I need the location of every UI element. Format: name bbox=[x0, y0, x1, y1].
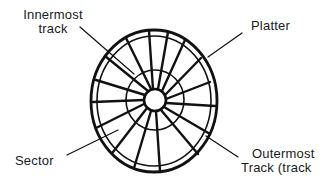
callout-outermost-track bbox=[206, 136, 238, 157]
label-innermost-line1: Innermost bbox=[21, 8, 85, 22]
label-innermost-line2: track bbox=[21, 22, 85, 36]
label-platter-text: Platter bbox=[251, 19, 290, 33]
label-platter: Platter bbox=[251, 19, 290, 33]
label-innermost-track: Innermost track bbox=[21, 8, 85, 36]
label-outermost-track: Outermost Track (track bbox=[241, 147, 314, 175]
label-sector-text: Sector bbox=[15, 154, 54, 168]
label-sector: Sector bbox=[15, 154, 54, 168]
platter bbox=[91, 30, 217, 172]
callout-platter bbox=[208, 33, 242, 57]
label-outermost-line2: Track (track bbox=[241, 161, 314, 175]
callout-innermost-track bbox=[80, 27, 134, 74]
label-outermost-line1: Outermost bbox=[241, 147, 314, 161]
